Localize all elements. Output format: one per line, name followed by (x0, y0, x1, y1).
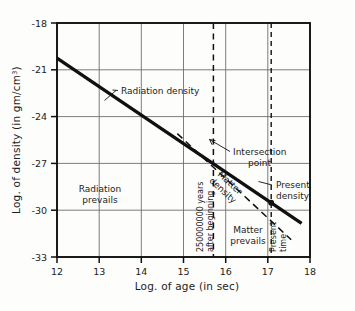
x-tick-label: 15 (177, 266, 189, 277)
annotation-intersection-point-line1: Intersection (233, 147, 287, 157)
annotation-present-density-line1: Present (276, 180, 310, 190)
radiation-density-leader-tick (113, 90, 119, 91)
y-axis-label-tail: ) (10, 66, 22, 70)
y-axis-label-text: Log. of density (in gm/cm (10, 75, 22, 214)
annotation-present-time-line2: time (279, 234, 288, 252)
y-tick-label: -27 (31, 158, 47, 169)
annotation-radiation-prevails-line1: Radiation (79, 184, 122, 194)
density-vs-age-chart: -18 -21 -24 -27 -30 -33 12 13 14 15 16 1… (0, 0, 355, 311)
annotation-matter-prevails-line1: Matter (233, 225, 263, 235)
y-tick-label: -18 (31, 18, 47, 29)
present-density-point (268, 200, 274, 206)
x-tick-label: 12 (51, 266, 63, 277)
annotation-years-line1: 250000000 years (196, 182, 205, 252)
y-axis-label: Log. of density (in gm/cm3) (10, 66, 22, 214)
x-axis-label: Log. of age (in sec) (135, 280, 240, 292)
annotation-intersection-point-line2: point (248, 158, 271, 168)
x-tick-label: 18 (304, 266, 316, 277)
annotation-250000000-years: 250000000 years after beginning (196, 182, 215, 252)
annotation-matter-prevails-line2: prevails (230, 236, 266, 246)
svg-text:Log. of density (in gm/cm3): Log. of density (in gm/cm3) (10, 66, 22, 214)
annotation-radiation-density: Radiation density (121, 86, 200, 96)
y-tick-label: -24 (31, 111, 47, 122)
x-tick-label: 16 (220, 266, 232, 277)
y-tick-label: -21 (31, 64, 47, 75)
y-tick-label: -33 (31, 252, 47, 263)
annotation-present-density-line2: density (276, 191, 310, 201)
chart-figure: -18 -21 -24 -27 -30 -33 12 13 14 15 16 1… (0, 0, 355, 311)
y-tick-label: -30 (31, 205, 47, 216)
x-tick-label: 17 (262, 266, 274, 277)
annotation-radiation-prevails-line2: prevails (82, 195, 118, 205)
chart-background (0, 0, 355, 311)
x-tick-label: 13 (93, 266, 105, 277)
annotation-years-line2: after beginning (206, 191, 215, 252)
annotation-present-time-line1: Present (269, 222, 278, 252)
x-tick-label: 14 (135, 266, 147, 277)
